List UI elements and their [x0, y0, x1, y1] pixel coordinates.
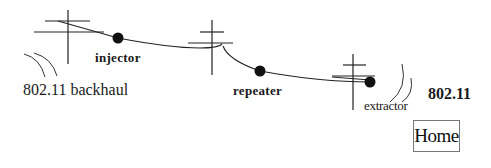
wireless-signal-icon-access — [390, 64, 412, 102]
injector-label: injector — [95, 51, 141, 64]
powerline-cable-1 — [58, 21, 222, 48]
wifi-access-label: 802.11 — [428, 86, 471, 102]
repeater-node-icon — [255, 66, 266, 77]
home-button[interactable]: Home — [413, 120, 460, 152]
backhaul-label: 802.11 backhaul — [23, 82, 128, 98]
utility-pole-1 — [34, 10, 104, 64]
wireless-signal-icon-backhaul — [24, 53, 57, 77]
repeater-label: repeater — [233, 84, 282, 97]
extractor-node-icon — [365, 77, 376, 88]
extractor-label: extractor — [364, 99, 408, 112]
injector-node-icon — [113, 33, 124, 44]
powerline-cable-2b — [332, 77, 370, 80]
home-button-label: Home — [414, 125, 458, 147]
